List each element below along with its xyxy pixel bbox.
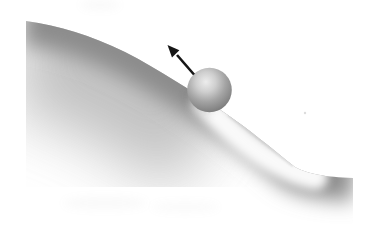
scan-speck [304, 112, 306, 114]
hill-ball-diagram [0, 0, 374, 225]
scan-smudge [63, 197, 147, 209]
scan-smudge [80, 1, 120, 9]
physics-figure [0, 0, 374, 225]
scan-smudge [151, 202, 219, 212]
